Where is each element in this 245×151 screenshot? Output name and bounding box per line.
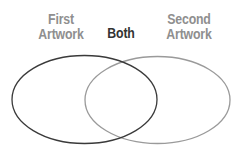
venn-diagram: First Artwork Both Second Artwork — [0, 0, 245, 151]
venn-circles — [0, 0, 245, 151]
